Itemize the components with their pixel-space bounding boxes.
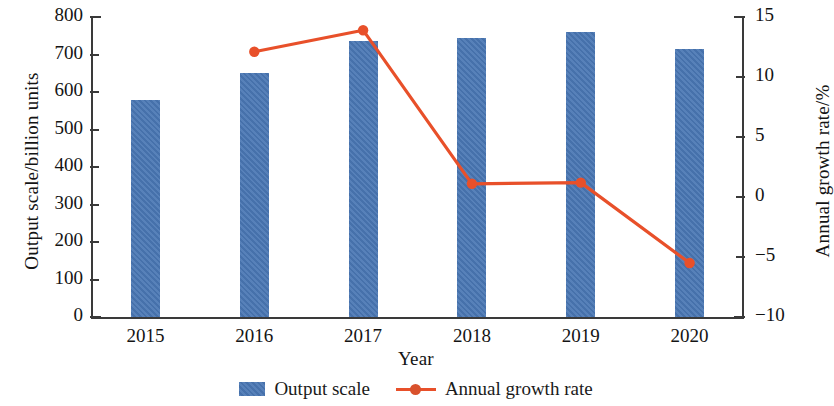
legend-item-output-scale: Output scale [239, 378, 370, 400]
x-axis-tick-label-2019: 2019 [536, 325, 626, 347]
line-series-annual-growth-rate [91, 17, 744, 319]
growth-rate-markers [249, 25, 695, 268]
growth-rate-point [684, 258, 694, 268]
y-axis-right-tick-label: 15 [755, 4, 774, 26]
x-axis-tick-label-2017: 2017 [318, 325, 408, 347]
x-axis-tick-label-2015: 2015 [100, 325, 190, 347]
y-axis-left-tick-label: 400 [0, 154, 83, 176]
y-axis-right-title: Annual growth rate/% [812, 21, 834, 321]
x-axis-tick-label-2020: 2020 [645, 325, 735, 347]
growth-rate-point [249, 47, 259, 57]
chart-legend: Output scale Annual growth rate [0, 378, 832, 400]
y-axis-left-tick-label: 100 [0, 267, 83, 289]
y-axis-left-tick-label: 300 [0, 192, 83, 214]
y-axis-right-tick-label: −10 [755, 304, 785, 326]
y-axis-right-tick-label: −5 [755, 244, 775, 266]
y-axis-left-tick-label: 600 [0, 79, 83, 101]
x-axis-tick-label-2018: 2018 [427, 325, 517, 347]
y-axis-left-tick-label: 500 [0, 117, 83, 139]
y-axis-right-tick-label: 0 [755, 184, 765, 206]
y-axis-left-tick-label: 700 [0, 42, 83, 64]
y-axis-right-tick-label: 5 [755, 124, 765, 146]
y-axis-left-tick-label: 200 [0, 229, 83, 251]
x-axis-title: Year [0, 348, 832, 370]
legend-item-annual-growth-rate: Annual growth rate [396, 378, 593, 400]
growth-rate-point [576, 177, 586, 187]
y-axis-left-tick-label: 800 [0, 4, 83, 26]
legend-label-output-scale: Output scale [274, 378, 370, 400]
y-axis-left-tick-label: 0 [0, 304, 83, 326]
plot-area: 0100200300400500600700800 −10−5051015 20… [91, 17, 744, 319]
y-axis-right-tick-label: 10 [755, 64, 774, 86]
growth-rate-point [467, 179, 477, 189]
growth-rate-point [358, 25, 368, 35]
x-axis-tick-label-2016: 2016 [209, 325, 299, 347]
legend-line-swatch-icon [396, 382, 436, 396]
legend-label-annual-growth-rate: Annual growth rate [445, 378, 593, 400]
legend-bar-swatch-icon [239, 382, 265, 396]
growth-rate-polyline [254, 30, 689, 263]
